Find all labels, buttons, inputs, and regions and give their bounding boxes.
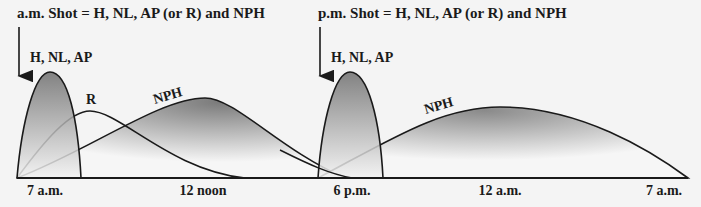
pm-rapid-curve (318, 72, 383, 178)
am-rapid-curve (17, 72, 81, 178)
pm-shot-title: p.m. Shot = H, NL, AP (or R) and NPH (318, 5, 567, 22)
tick-7am: 7 a.m. (27, 183, 63, 199)
am-rapid-label: H, NL, AP (30, 50, 92, 66)
curves-canvas (0, 0, 701, 207)
tick-12am: 12 a.m. (478, 183, 521, 199)
insulin-action-diagram: a.m. Shot = H, NL, AP (or R) and NPH p.m… (0, 0, 701, 207)
tick-6pm: 6 p.m. (334, 183, 371, 199)
pm-rapid-label: H, NL, AP (331, 50, 393, 66)
am-regular-label: R (86, 92, 96, 108)
tick-7am-next: 7 a.m. (646, 183, 682, 199)
am-shot-title: a.m. Shot = H, NL, AP (or R) and NPH (17, 5, 265, 22)
tick-12noon: 12 noon (179, 183, 226, 199)
